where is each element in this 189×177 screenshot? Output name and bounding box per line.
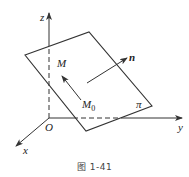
normal-label: n <box>129 52 135 63</box>
plane-label: π <box>136 99 142 110</box>
y-axis-label: y <box>178 122 183 133</box>
normal-vector-arrow <box>87 58 127 83</box>
figure-caption: 图 1-41 <box>0 160 189 173</box>
point-m0-label: M0 <box>82 99 95 113</box>
point-m0-subscript: 0 <box>91 104 95 113</box>
point-m0-letter: M <box>82 98 91 110</box>
origin-label: O <box>45 122 53 133</box>
plane-diagram <box>0 0 189 177</box>
z-axis-label: z <box>40 12 44 23</box>
point-m-label: M <box>57 58 66 69</box>
m0-m-vector-arrow <box>62 76 81 100</box>
x-axis-label: x <box>23 145 28 156</box>
